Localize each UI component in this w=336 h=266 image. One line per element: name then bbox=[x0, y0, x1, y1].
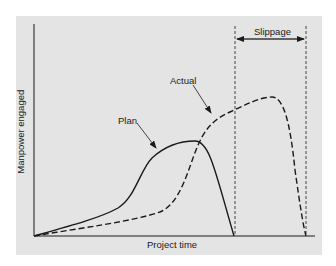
actual-curve bbox=[34, 97, 306, 236]
plan-label: Plan bbox=[118, 116, 137, 126]
plan-pointer bbox=[137, 123, 156, 148]
chart-svg bbox=[0, 0, 336, 266]
actual-pointer bbox=[193, 85, 211, 113]
x-axis-label: Project time bbox=[147, 240, 197, 250]
slippage-label: Slippage bbox=[254, 27, 291, 37]
actual-label: Actual bbox=[170, 76, 196, 86]
y-axis-label: Manpower engaged bbox=[16, 94, 26, 174]
plan-curve bbox=[34, 141, 234, 236]
